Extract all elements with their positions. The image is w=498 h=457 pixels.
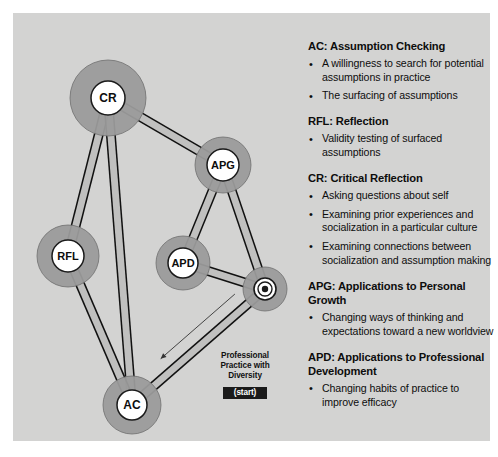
- definition-bullet-list: •Changing habits of practice to improve …: [308, 382, 498, 410]
- bullet-icon: •: [309, 239, 313, 253]
- definition-bullet-item: •Changing habits of practice to improve …: [308, 382, 498, 410]
- bullet-icon: •: [309, 89, 313, 103]
- definition-title: APD: Applications to Professional Develo…: [308, 350, 498, 378]
- definition-bullet-list: •A willingness to search for potential a…: [308, 57, 498, 103]
- definition-block: APD: Applications to Professional Develo…: [308, 350, 498, 410]
- definition-block: AC: Assumption Checking•A willingness to…: [308, 39, 498, 103]
- bullet-icon: •: [309, 207, 313, 221]
- definition-bullet-text: Asking questions about self: [322, 189, 448, 201]
- start-badge: (start): [223, 387, 268, 399]
- definition-bullet-item: •The surfacing of assumptions: [308, 89, 498, 103]
- definition-bullet-list: •Validity testing of surfaced assumption…: [308, 132, 498, 160]
- start-caption-line-2: Practice with: [203, 361, 287, 371]
- bullet-icon: •: [309, 132, 313, 146]
- diagram-panel: CRAPGRFLAPDAC Professional Practice with…: [13, 13, 490, 441]
- definition-bullet-item: •A willingness to search for potential a…: [308, 57, 498, 85]
- definition-bullet-text: Validity testing of surfaced assumptions: [322, 132, 442, 158]
- bullet-icon: •: [309, 310, 313, 324]
- definition-bullet-item: •Changing ways of thinking and expectati…: [308, 311, 498, 339]
- definition-bullet-text: Examining prior experiences and socializ…: [322, 208, 477, 234]
- definitions-list: AC: Assumption Checking•A willingness to…: [308, 39, 498, 421]
- node-ac[interactable]: AC: [103, 376, 161, 434]
- definition-block: RFL: Reflection•Validity testing of surf…: [308, 114, 498, 160]
- definition-bullet-text: The surfacing of assumptions: [322, 89, 458, 101]
- definition-bullet-text: A willingness to search for potential as…: [322, 57, 484, 83]
- node-label: AC: [123, 398, 141, 412]
- definition-bullet-item: •Examining prior experiences and sociali…: [308, 208, 498, 236]
- definition-block: CR: Critical Reflection•Asking questions…: [308, 171, 498, 267]
- node-start[interactable]: [243, 267, 287, 311]
- node-apg[interactable]: APG: [195, 137, 251, 193]
- bullet-icon: •: [309, 189, 313, 203]
- definition-title: CR: Critical Reflection: [308, 171, 498, 185]
- node-label: APG: [211, 159, 235, 171]
- node-rfl[interactable]: RFL: [37, 225, 99, 287]
- definition-bullet-list: •Asking questions about self•Examining p…: [308, 189, 498, 267]
- start-center-dot-icon: [262, 286, 268, 292]
- definition-title: AC: Assumption Checking: [308, 39, 498, 53]
- definition-title: RFL: Reflection: [308, 114, 498, 128]
- definition-bullet-text: Examining connections between socializat…: [322, 240, 491, 266]
- definition-bullet-text: Changing ways of thinking and expectatio…: [322, 311, 493, 337]
- definition-title: APG: Applications to Personal Growth: [308, 279, 498, 307]
- node-cr[interactable]: CR: [70, 60, 146, 136]
- bullet-icon: •: [309, 381, 313, 395]
- node-label: APD: [171, 257, 194, 269]
- definition-bullet-list: •Changing ways of thinking and expectati…: [308, 311, 498, 339]
- definition-block: APG: Applications to Personal Growth•Cha…: [308, 279, 498, 339]
- node-label: CR: [99, 91, 117, 105]
- definition-bullet-item: •Validity testing of surfaced assumption…: [308, 132, 498, 160]
- start-caption: Professional Practice with Diversity (st…: [203, 351, 287, 399]
- node-label: RFL: [57, 250, 79, 262]
- definition-bullet-item: •Examining connections between socializa…: [308, 240, 498, 268]
- start-caption-line-3: Diversity: [203, 371, 287, 381]
- start-caption-line-1: Professional: [203, 351, 287, 361]
- bullet-icon: •: [309, 57, 313, 71]
- definition-bullet-item: •Asking questions about self: [308, 189, 498, 203]
- node-apd[interactable]: APD: [156, 236, 210, 290]
- definition-bullet-text: Changing habits of practice to improve e…: [322, 382, 459, 408]
